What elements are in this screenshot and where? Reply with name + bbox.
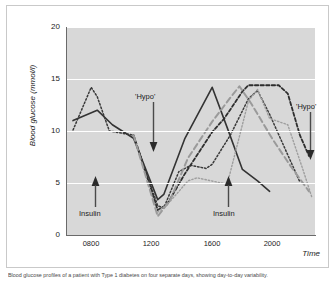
y-tick-0: 0 [38, 231, 60, 239]
plot-area [67, 27, 315, 235]
gridline-5 [67, 183, 315, 184]
annotation-hypo-right-arrow [306, 112, 315, 160]
x-tick-1600: 1600 [195, 239, 229, 248]
y-tick-15: 15 [38, 75, 60, 83]
y-tick-20: 20 [38, 23, 60, 31]
y-tick-5: 5 [38, 179, 60, 187]
annotation-hypo-left-label: 'Hypo' [135, 92, 155, 101]
x-axis-title: Time [302, 249, 320, 258]
gridline-15 [67, 79, 315, 80]
annotation-insulin-left-arrow [91, 176, 100, 207]
x-tick-0800: 0800 [74, 239, 108, 248]
y-axis-line [66, 27, 67, 236]
y-tick-10: 10 [38, 127, 60, 135]
x-tick-2000: 2000 [255, 239, 289, 248]
series-day-3-dashed-dark [134, 85, 309, 210]
x-tick-1200: 1200 [134, 239, 168, 248]
annotation-insulin-right-arrow [224, 176, 233, 207]
gridline-10 [67, 131, 315, 132]
annotation-hypo-left-arrow [149, 102, 158, 152]
annotation-insulin-left-label: Insulin [79, 209, 101, 218]
series-day-2-dotted-dark [73, 87, 300, 208]
y-axis-title: Blood glucose (mmol/l) [28, 31, 37, 181]
annotation-hypo-right-label: 'Hypo' [296, 102, 316, 111]
annotation-insulin-right-label: Insulin [213, 209, 235, 218]
figure-panel: 20 15 10 5 0 0800 1200 1600 2000 Blood g… [6, 5, 329, 268]
gridline-20 [67, 27, 315, 28]
x-axis-line [66, 235, 316, 236]
figure-caption: Blood glucose profiles of a patient with… [8, 272, 330, 284]
